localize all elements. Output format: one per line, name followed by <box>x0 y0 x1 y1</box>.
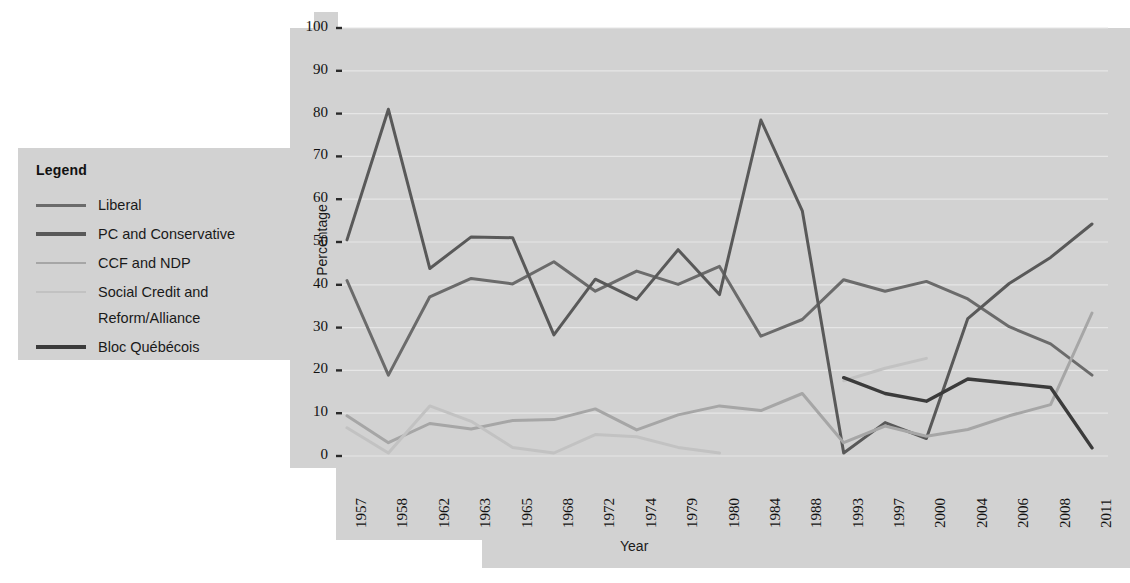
x-tick-label-1997: 1997 <box>891 498 908 528</box>
x-tick-label-1968: 1968 <box>560 498 577 528</box>
y-axis-title: Percentage <box>314 170 330 310</box>
x-tick-label-1993: 1993 <box>850 498 867 528</box>
y-tick-label-20: 20 <box>288 360 328 377</box>
x-tick-label-1962: 1962 <box>436 498 453 528</box>
x-tick-label-1980: 1980 <box>726 498 743 528</box>
y-tick-label-100: 100 <box>288 18 328 35</box>
plot-area: 0102030405060708090100 19571958196219631… <box>0 0 1130 583</box>
y-tick-label-30: 30 <box>288 318 328 335</box>
x-tick-label-2008: 2008 <box>1057 498 1074 528</box>
x-tick-label-2006: 2006 <box>1015 498 1032 528</box>
y-tick-label-80: 80 <box>288 104 328 121</box>
x-tick-label-1972: 1972 <box>601 498 618 528</box>
y-tick-label-10: 10 <box>288 403 328 420</box>
y-tick-label-0: 0 <box>288 446 328 463</box>
data-series-group <box>347 109 1092 453</box>
series-line-liberal <box>347 262 1092 375</box>
x-tick-label-1979: 1979 <box>684 498 701 528</box>
x-axis-title: Year <box>620 538 648 554</box>
x-tick-label-1984: 1984 <box>767 498 784 528</box>
x-tick-label-1963: 1963 <box>477 498 494 528</box>
y-tick-label-70: 70 <box>288 146 328 163</box>
x-tick-label-1965: 1965 <box>519 498 536 528</box>
chart-svg <box>0 0 1130 583</box>
series-line-ccf-and-ndp <box>347 313 1092 443</box>
series-line-social-credit-and-reform-alliance <box>844 358 927 380</box>
x-tick-label-1974: 1974 <box>643 498 660 528</box>
x-tick-label-1957: 1957 <box>353 498 370 528</box>
series-line-pc-and-conservative <box>347 109 1092 453</box>
x-tick-label-2000: 2000 <box>932 498 949 528</box>
x-tick-label-1988: 1988 <box>808 498 825 528</box>
x-tick-label-2011: 2011 <box>1098 499 1115 528</box>
gridlines <box>336 28 1108 456</box>
x-tick-label-2004: 2004 <box>974 498 991 528</box>
axis-tickmarks <box>336 28 342 456</box>
y-tick-label-90: 90 <box>288 61 328 78</box>
x-tick-label-1958: 1958 <box>394 498 411 528</box>
